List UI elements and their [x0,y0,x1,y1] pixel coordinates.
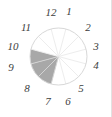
right-border-divider [111,0,112,117]
hour-numeral-10: 10 [8,41,19,52]
hour-numeral-5: 5 [78,83,84,94]
hour-numeral-7: 7 [45,96,51,107]
hour-numeral-6: 6 [65,96,71,107]
hour-numeral-4: 4 [93,60,99,71]
hour-numeral-2: 2 [85,22,91,33]
hour-numeral-12: 12 [46,7,57,18]
clock-face-figure: 121234567891011 [0,0,112,117]
hour-numeral-9: 9 [8,62,14,73]
hour-numeral-11: 11 [21,22,31,33]
hour-numeral-1: 1 [66,6,72,17]
hour-numeral-3: 3 [93,41,99,52]
hour-numeral-8: 8 [24,83,30,94]
